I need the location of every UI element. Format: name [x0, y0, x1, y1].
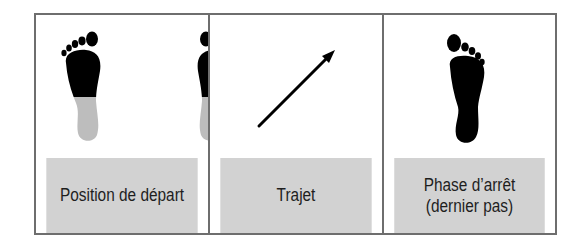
panel-path: Trajet: [208, 15, 382, 233]
arrow-up-right-icon: [259, 50, 335, 126]
panel-start-position: Position de départ: [36, 15, 208, 233]
caption-line: Phase d’arrêt: [424, 175, 516, 196]
panel-stop-phase: Phase d’arrêt (dernier pas): [382, 15, 555, 233]
stop-phase-illustration: [384, 15, 555, 158]
caption-line: Position de départ: [60, 185, 184, 206]
step-diagram: Position de départ Trajet: [34, 13, 557, 235]
caption-line: (dernier pas): [426, 196, 513, 217]
caption-line: Trajet: [277, 185, 316, 206]
footprint-icon: [447, 34, 485, 143]
caption-start-position: Position de départ: [46, 158, 197, 233]
path-illustration: [210, 15, 382, 158]
caption-stop-phase: Phase d’arrêt (dernier pas): [394, 158, 544, 233]
left-foot-icon: [61, 32, 100, 141]
right-foot-icon: [198, 32, 208, 141]
start-position-illustration: [36, 15, 208, 158]
caption-path: Trajet: [220, 158, 371, 233]
